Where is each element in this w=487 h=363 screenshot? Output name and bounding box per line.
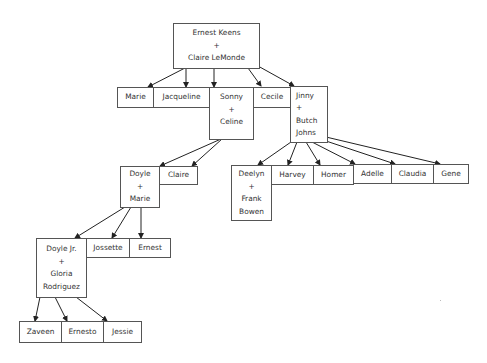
node-line: Claire LeMonde <box>188 52 245 65</box>
node-cecile: Cecile <box>253 87 291 108</box>
node-ernesto: Ernesto <box>61 321 104 343</box>
family-tree-diagram: Ernest Keens + Claire LeMonde Marie Jacq… <box>0 0 487 363</box>
node-claire: Claire <box>159 166 198 185</box>
node-line: + <box>58 256 64 269</box>
node-line: Jossette <box>93 242 122 255</box>
node-line: Homer <box>321 169 346 182</box>
node-ernest-keens-claire-lemonde: Ernest Keens + Claire LeMonde <box>173 23 260 69</box>
node-sonny-celine: Sonny + Celine <box>209 87 254 140</box>
node-line: Frank <box>241 193 261 206</box>
node-line: Doyle <box>129 168 150 181</box>
node-line: Johns <box>296 127 316 140</box>
node-line: + <box>213 40 219 53</box>
node-jossette: Jossette <box>86 238 130 258</box>
node-line: Butch <box>296 115 317 128</box>
node-line: Celine <box>220 116 243 129</box>
node-jinny-butch-johns: Jinny + Butch Johns <box>290 86 328 143</box>
node-line: + <box>248 181 254 194</box>
node-ernest: Ernest <box>129 238 171 258</box>
node-line: + <box>137 181 143 194</box>
node-harvey: Harvey <box>271 165 314 185</box>
node-line: Gene <box>441 168 461 181</box>
node-line: Bowen <box>239 206 264 219</box>
node-line: Marie <box>130 193 151 206</box>
node-line: Cecile <box>261 91 283 104</box>
node-line: Jacqueline <box>162 91 200 104</box>
node-line: Rodriguez <box>43 281 80 294</box>
node-doyle-jr-gloria-rodriguez: Doyle Jr. + Gloria Rodriguez <box>36 238 87 298</box>
node-line: Ernest <box>138 242 162 255</box>
node-line: Claire <box>168 169 189 182</box>
node-gene: Gene <box>433 164 469 184</box>
node-line: Gloria <box>51 268 73 281</box>
node-jessie: Jessie <box>103 321 142 343</box>
node-line: Jessie <box>112 326 133 339</box>
node-line: Sonny <box>220 91 243 104</box>
node-line: Marie <box>125 91 146 104</box>
node-line: Claudia <box>399 168 427 181</box>
node-line: Adelle <box>361 168 384 181</box>
node-line: Zaveen <box>27 326 55 339</box>
node-line: Ernest Keens <box>192 27 240 40</box>
node-line: Deelyn <box>239 168 265 181</box>
node-deelyn-frank-bowen: Deelyn + Frank Bowen <box>231 165 272 221</box>
node-line: Harvey <box>279 169 305 182</box>
node-claudia: Claudia <box>391 164 434 184</box>
node-jacqueline: Jacqueline <box>153 87 210 108</box>
node-line: + <box>296 102 302 115</box>
node-adelle: Adelle <box>353 164 392 184</box>
node-zaveen: Zaveen <box>19 321 62 343</box>
stray-mark <box>440 300 441 301</box>
node-line: + <box>228 104 234 117</box>
node-line: Jinny <box>296 90 314 103</box>
node-line: Ernesto <box>68 326 96 339</box>
node-marie: Marie <box>117 87 154 108</box>
node-doyle-marie: Doyle + Marie <box>120 166 160 208</box>
node-homer: Homer <box>313 165 354 185</box>
node-line: Doyle Jr. <box>46 243 76 256</box>
